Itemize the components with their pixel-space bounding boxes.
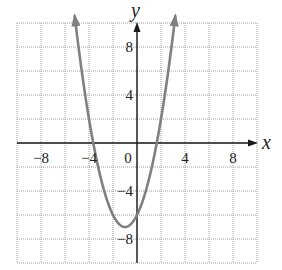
y-axis-label: y [129, 0, 140, 22]
x-tick-label: −4 [81, 150, 97, 166]
y-tick-label: 4 [126, 87, 134, 103]
x-tick-label: 0 [124, 150, 132, 166]
axes [17, 22, 258, 263]
x-tick-label: −8 [33, 150, 49, 166]
y-tick-label: −8 [117, 231, 133, 247]
parabola-chart: −8−404884−4−8 x y [0, 0, 282, 270]
x-tick-label: 8 [229, 150, 237, 166]
x-tick-label: 4 [181, 150, 189, 166]
y-tick-label: −4 [117, 183, 133, 199]
x-axis-label: x [261, 131, 271, 153]
y-tick-label: 8 [126, 39, 134, 55]
